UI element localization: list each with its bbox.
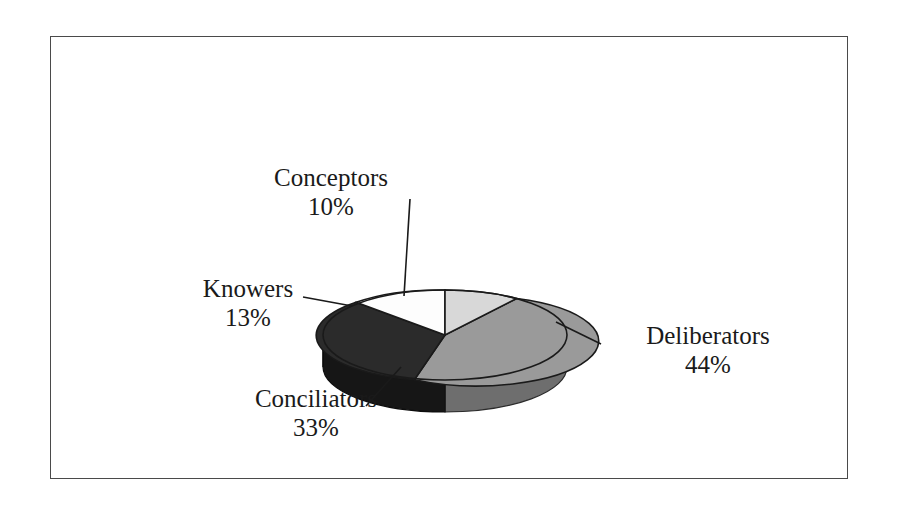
pie-label-deliberators-value: 44% [598, 351, 818, 380]
pie-label-conceptors: Conceptors 10% [246, 164, 416, 221]
pie-chart-figure: Conceptors 10% Knowers 13% Conciliators … [0, 0, 898, 508]
pie-label-knowers-value: 13% [178, 304, 318, 333]
pie-label-conciliators-name: Conciliators [216, 385, 416, 414]
pie-label-knowers-name: Knowers [178, 275, 318, 304]
pie-label-knowers: Knowers 13% [178, 275, 318, 332]
pie-chart-graphic [0, 0, 898, 508]
pie-label-conciliators-value: 33% [216, 414, 416, 443]
pie-label-conciliators: Conciliators 33% [216, 385, 416, 442]
pie-label-deliberators: Deliberators 44% [598, 322, 818, 379]
pie-label-conceptors-name: Conceptors [246, 164, 416, 193]
pie-label-deliberators-name: Deliberators [598, 322, 818, 351]
pie-label-conceptors-value: 10% [246, 193, 416, 222]
